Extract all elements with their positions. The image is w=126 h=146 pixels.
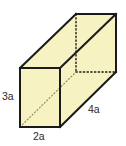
rectangular-prism-figure: 3a 2a 4a [0,0,126,146]
dimension-label-width: 2a [33,131,45,142]
prism-drawing [0,0,126,146]
front-face [20,68,60,127]
dimension-label-depth: 4a [88,104,100,115]
dimension-label-height: 3a [2,91,14,102]
